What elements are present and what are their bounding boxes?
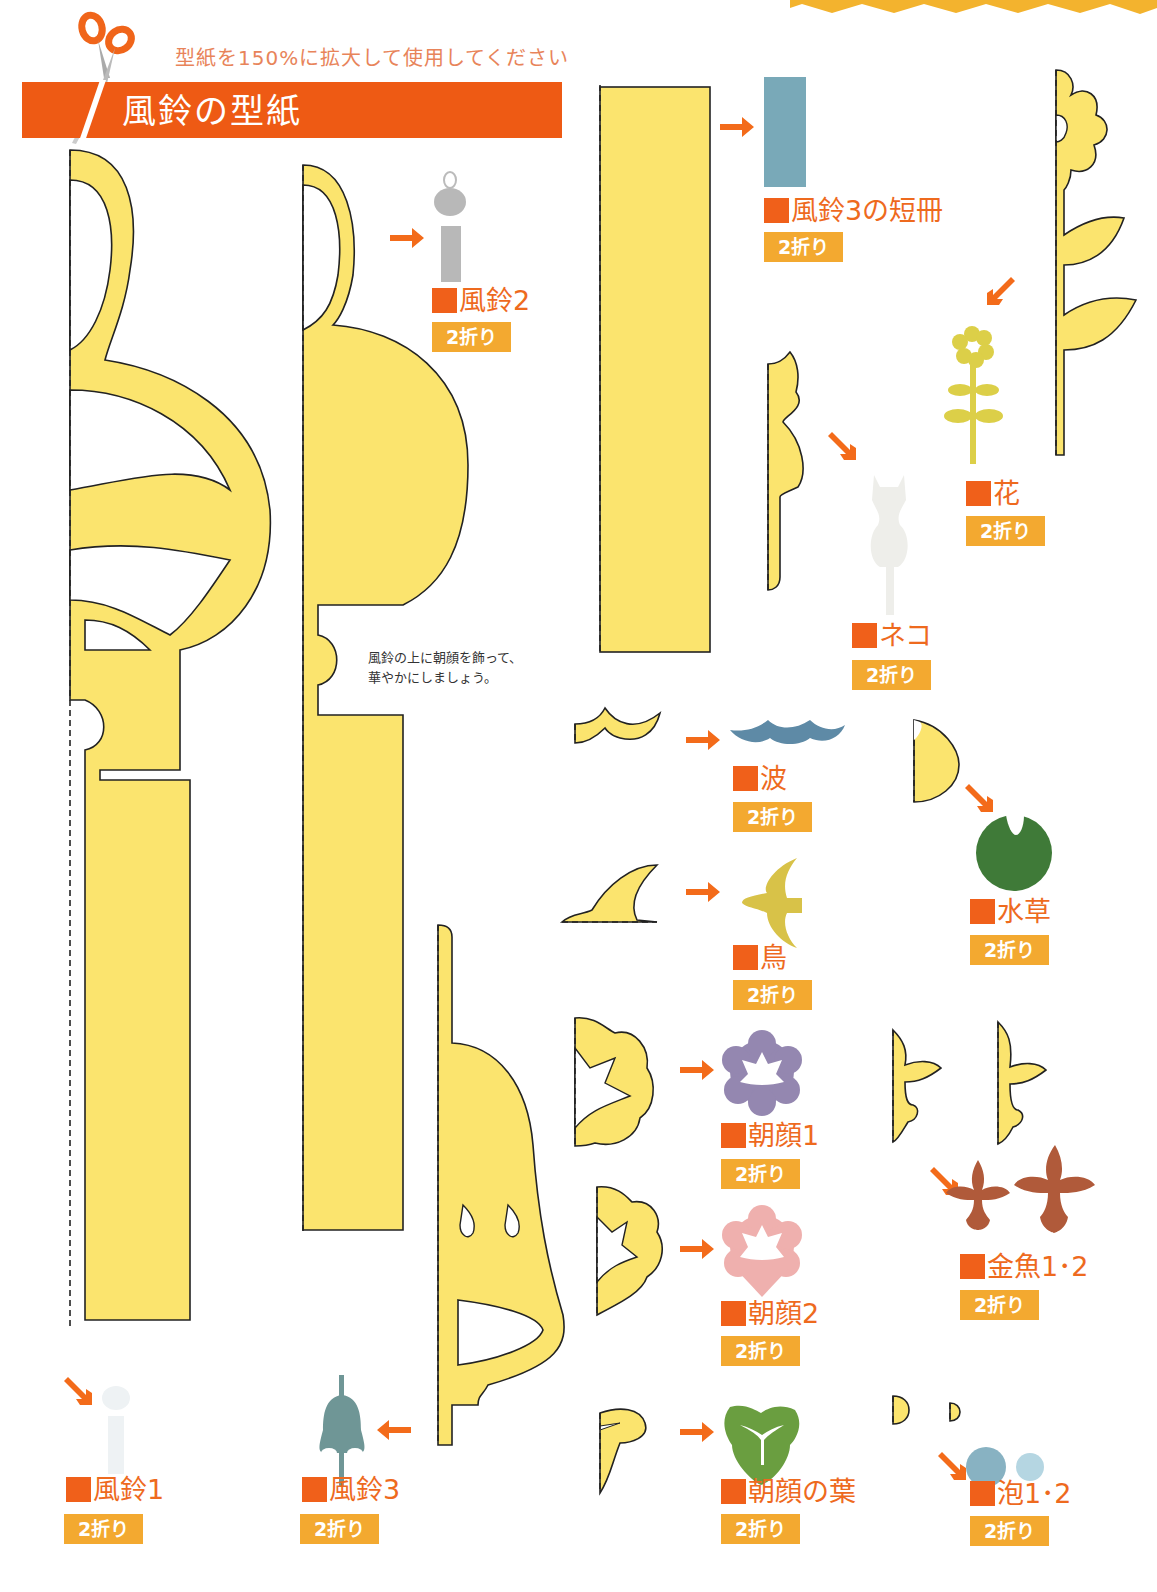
label-marker xyxy=(66,1477,91,1502)
arrow-right-icon xyxy=(680,1420,716,1444)
template-tori xyxy=(562,865,662,925)
label-marker xyxy=(764,198,789,223)
template-tanzaku xyxy=(600,85,712,655)
label-marker xyxy=(733,766,758,791)
label-asagao-ha: 朝顔の葉 xyxy=(721,1478,856,1505)
template-asagao2 xyxy=(597,1187,667,1317)
label-marker xyxy=(970,899,995,924)
template-nami xyxy=(575,708,665,748)
label-tanzaku: 風鈴3の短冊 xyxy=(764,197,943,224)
label-furin1: 風鈴1 xyxy=(66,1476,164,1503)
preview-tori xyxy=(742,858,802,948)
fold-badge-asagao1: 2折り xyxy=(721,1159,800,1189)
label-marker xyxy=(721,1301,746,1326)
preview-neko xyxy=(866,475,916,615)
label-asagao1: 朝顔1 xyxy=(721,1122,819,1149)
label-marker xyxy=(302,1477,327,1502)
label-furin3: 風鈴3 xyxy=(302,1476,400,1503)
fold-badge-furin1: 2折り xyxy=(64,1514,143,1544)
arrow-down-right-icon xyxy=(828,430,858,460)
label-neko: ネコ xyxy=(852,622,932,649)
template-mizukusa xyxy=(914,720,964,805)
label-awa: 泡1･2 xyxy=(970,1480,1071,1507)
label-marker xyxy=(960,1254,985,1279)
label-marker xyxy=(721,1123,746,1148)
template-furin3 xyxy=(438,925,588,1445)
preview-mizukusa xyxy=(972,815,1058,891)
fold-badge-furin3: 2折り xyxy=(300,1514,379,1544)
fold-badge-tanzaku: 2折り xyxy=(764,232,843,262)
arrow-right-icon xyxy=(390,226,426,250)
top-wave-decoration xyxy=(790,0,1157,14)
preview-asagao-ha xyxy=(720,1405,802,1485)
fold-badge-hana: 2折り xyxy=(966,516,1045,546)
fold-badge-kingyo: 2折り xyxy=(960,1290,1039,1320)
template-awa2 xyxy=(950,1403,964,1423)
preview-furin3 xyxy=(315,1375,370,1490)
fold-badge-tori: 2折り xyxy=(733,980,812,1010)
page-title: 風鈴の型紙 xyxy=(122,84,302,133)
template-kingyo1 xyxy=(893,1030,943,1145)
label-furin2: 風鈴2 xyxy=(432,287,530,314)
label-marker xyxy=(733,945,758,970)
fold-badge-nami: 2折り xyxy=(733,802,812,832)
label-kingyo: 金魚1･2 xyxy=(960,1253,1088,1280)
arrow-right-icon xyxy=(686,728,722,752)
preview-asagao1 xyxy=(720,1030,804,1114)
arrow-right-icon xyxy=(680,1058,716,1082)
fold-badge-awa: 2折り xyxy=(970,1516,1049,1546)
label-mizukusa: 水草 xyxy=(970,898,1051,925)
fold-badge-asagao2: 2折り xyxy=(721,1336,800,1366)
arrow-left-icon xyxy=(375,1418,411,1442)
label-marker xyxy=(721,1479,746,1504)
arrow-down-right-icon xyxy=(938,1450,968,1480)
instruction-text: 型紙を150%に拡大して使用してください xyxy=(175,42,569,71)
fold-badge-neko: 2折り xyxy=(852,660,931,690)
template-asagao1 xyxy=(575,1018,665,1148)
template-awa1 xyxy=(893,1396,913,1426)
label-tori: 鳥 xyxy=(733,944,787,971)
label-marker xyxy=(432,288,457,313)
label-marker xyxy=(966,481,991,506)
arrow-down-right-icon xyxy=(64,1375,94,1405)
title-band-slash xyxy=(60,80,110,144)
note-text: 風鈴の上に朝顔を飾って、 華やかにしましょう。 xyxy=(368,648,522,688)
fold-badge-furin2: 2折り xyxy=(432,322,511,352)
label-marker xyxy=(970,1481,995,1506)
preview-furin1 xyxy=(100,1378,135,1478)
template-hana xyxy=(1056,70,1146,460)
label-hana: 花 xyxy=(966,480,1020,507)
fold-badge-asagao-ha: 2折り xyxy=(721,1514,800,1544)
arrow-down-left-icon xyxy=(985,275,1015,305)
arrow-down-right-icon xyxy=(965,782,995,812)
arrow-right-icon xyxy=(720,115,756,139)
preview-tanzaku xyxy=(764,77,806,187)
arrow-right-icon xyxy=(680,1237,716,1261)
preview-furin2 xyxy=(430,168,470,286)
fold-badge-mizukusa: 2折り xyxy=(970,935,1049,965)
template-kingyo2 xyxy=(998,1022,1048,1147)
template-furin1 xyxy=(70,150,270,1330)
preview-nami xyxy=(730,720,850,750)
template-asagao-ha xyxy=(600,1408,650,1498)
preview-kingyo xyxy=(950,1145,1110,1245)
label-marker xyxy=(852,623,877,648)
label-asagao2: 朝顔2 xyxy=(721,1300,819,1327)
preview-hana xyxy=(950,320,1010,465)
arrow-right-icon xyxy=(686,880,722,904)
preview-asagao2 xyxy=(720,1205,804,1300)
label-nami: 波 xyxy=(733,765,787,792)
template-neko xyxy=(768,352,818,592)
